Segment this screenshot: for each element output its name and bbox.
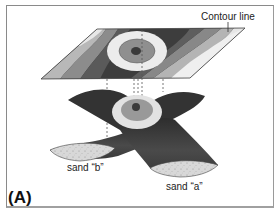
- contour-map-plane: [41, 22, 245, 79]
- diagram-graphic: [0, 0, 277, 216]
- sand-b-cross-section: [50, 143, 115, 161]
- panel-label: (A): [8, 189, 32, 206]
- contour-ring-center: [131, 47, 141, 55]
- diagram-figure: Contour line sand “b” sand “a” (A): [0, 0, 277, 216]
- contour-line-label: Contour line: [201, 12, 255, 22]
- saddle-dome-center: [132, 103, 140, 111]
- sand-a-label: sand “a”: [166, 182, 203, 192]
- sand-b-label: sand “b”: [67, 163, 104, 173]
